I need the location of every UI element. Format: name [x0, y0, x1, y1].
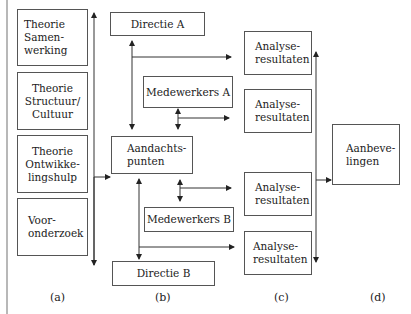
- box-text-line: Ontwikke-: [25, 158, 79, 171]
- box-text-line: lingen: [346, 155, 395, 168]
- box-text-line: Samen-: [24, 31, 67, 44]
- box-text-line: onderzoek: [28, 227, 83, 240]
- box-aandachtspunten: Aandachts- punten: [111, 136, 193, 174]
- box-text-line: resultaten: [255, 111, 309, 124]
- box-text: Directie B: [137, 267, 191, 280]
- box-theorie-structuur-cultuur: Theorie Structuur/ Cultuur: [17, 72, 88, 130]
- box-text-line: Voor-: [28, 214, 83, 227]
- box-text-line: werking: [24, 44, 67, 57]
- box-analyseresultaten-4: Analyse- resultaten: [244, 231, 312, 275]
- box-theorie-samenwerking: Theorie Samen- werking: [17, 9, 88, 66]
- box-text-line: lingshulp: [25, 171, 79, 184]
- box-medewerkers-b: Medewerkers B: [144, 207, 234, 232]
- column-label-a: (a): [50, 291, 65, 304]
- box-text-line: Structuur/: [25, 95, 80, 108]
- box-text-line: resultaten: [253, 253, 307, 266]
- box-text: Medewerkers A: [146, 86, 230, 99]
- box-text: Medewerkers B: [147, 213, 231, 226]
- box-text-line: Aanbeve-: [346, 142, 395, 155]
- box-analyseresultaten-1: Analyse- resultaten: [244, 31, 312, 75]
- box-text-line: punten: [127, 155, 186, 168]
- box-text: Directie A: [131, 18, 185, 31]
- box-text-line: resultaten: [255, 53, 309, 66]
- box-aanbevelingen: Aanbeve- lingen: [332, 124, 400, 185]
- box-theorie-ontwikkelingshulp: Theorie Ontwikke- lingshulp: [17, 135, 88, 193]
- box-text-line: Analyse-: [255, 181, 309, 194]
- box-analyseresultaten-2: Analyse- resultaten: [244, 89, 312, 133]
- box-text-line: resultaten: [255, 194, 309, 207]
- box-text-line: Theorie: [25, 145, 79, 158]
- box-directie-b: Directie B: [112, 261, 215, 286]
- column-label-b: (b): [155, 291, 171, 304]
- box-text-line: Theorie: [24, 18, 67, 31]
- box-text-line: Analyse-: [255, 40, 309, 53]
- box-medewerkers-a: Medewerkers A: [143, 76, 233, 108]
- column-label-c: (c): [274, 291, 289, 304]
- box-vooronderzoek: Voor- onderzoek: [17, 198, 88, 256]
- box-text-line: Aandachts-: [127, 142, 186, 155]
- box-text-line: Analyse-: [253, 240, 307, 253]
- box-analyseresultaten-3: Analyse- resultaten: [244, 172, 312, 216]
- diagram-canvas: Theorie Samen- werking Theorie Structuur…: [0, 0, 411, 314]
- column-label-d: (d): [370, 291, 386, 304]
- box-text-line: Analyse-: [255, 98, 309, 111]
- box-text-line: Cultuur: [25, 108, 80, 121]
- box-text-line: Theorie: [25, 82, 80, 95]
- box-directie-a: Directie A: [110, 12, 205, 36]
